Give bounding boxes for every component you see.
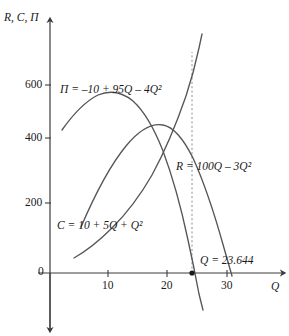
y-tick-label-600: 600 <box>25 79 42 91</box>
breakeven-point-marker <box>189 270 194 275</box>
y-tick-label-0: 0 <box>38 266 44 278</box>
revenue-equation-label: R = 100Q – 3Q² <box>176 161 251 173</box>
chart-figure: R, C, Π Q 600 400 200 0 10 20 30 Π = –10… <box>0 0 289 336</box>
breakeven-value-label: Q = 23.644 <box>200 255 253 267</box>
cost-equation-label: C = 10 + 5Q + Q² <box>57 220 143 232</box>
x-tick-label-20: 20 <box>161 280 173 292</box>
y-axis-label: R, C, Π <box>4 12 39 24</box>
profit-equation-label: Π = –10 + 95Q – 4Q² <box>60 84 161 96</box>
y-tick-label-200: 200 <box>25 197 42 209</box>
x-tick-label-30: 30 <box>221 280 233 292</box>
x-tick-label-10: 10 <box>102 280 114 292</box>
curve-profit <box>62 92 203 310</box>
y-tick-label-400: 400 <box>25 132 42 144</box>
x-axis-label: Q <box>271 281 279 293</box>
